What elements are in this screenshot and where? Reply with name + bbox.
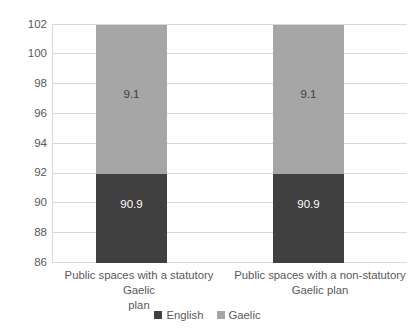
y-tick-102: 102 xyxy=(7,18,47,30)
y-tick-88: 88 xyxy=(7,226,47,238)
legend-item-gaelic[interactable]: Gaelic xyxy=(217,309,261,321)
category-label-line2: Gaelic plan xyxy=(233,283,407,298)
bar-label-gaelic: 9.1 xyxy=(96,88,167,100)
chart-legend: English Gaelic xyxy=(0,309,415,321)
bar-label-english: 90.9 xyxy=(96,198,167,210)
legend-item-english[interactable]: English xyxy=(154,309,203,321)
bar-segment-gaelic[interactable]: 9.1 xyxy=(96,25,167,174)
category-label-statutory: Public spaces with a statutory Gaelic pl… xyxy=(52,268,226,313)
bar-group-statutory[interactable]: 9.1 90.9 xyxy=(96,25,167,263)
stacked-bar-chart: 102 100 98 96 94 92 90 88 86 9.1 90.9 xyxy=(0,0,415,330)
y-tick-92: 92 xyxy=(7,166,47,178)
bar-segment-gaelic[interactable]: 9.1 xyxy=(273,25,344,174)
plot-area: 9.1 90.9 9.1 90.9 xyxy=(52,24,407,263)
bar-segment-english[interactable]: 90.9 xyxy=(273,174,344,263)
legend-swatch-icon xyxy=(217,311,225,319)
category-label-line1: Public spaces with a statutory Gaelic xyxy=(52,268,226,298)
category-label-line1: Public spaces with a non-statutory xyxy=(233,268,407,283)
legend-swatch-icon xyxy=(154,311,162,319)
bar-segment-english[interactable]: 90.9 xyxy=(96,174,167,263)
y-tick-94: 94 xyxy=(7,137,47,149)
y-tick-86: 86 xyxy=(7,256,47,268)
y-tick-100: 100 xyxy=(7,47,47,59)
y-tick-90: 90 xyxy=(7,196,47,208)
y-tick-96: 96 xyxy=(7,107,47,119)
bar-label-english: 90.9 xyxy=(273,198,344,210)
category-label-non-statutory: Public spaces with a non-statutory Gaeli… xyxy=(233,268,407,298)
legend-label-gaelic: Gaelic xyxy=(229,309,261,321)
y-tick-98: 98 xyxy=(7,77,47,89)
x-axis-category-labels: Public spaces with a statutory Gaelic pl… xyxy=(52,268,407,302)
bar-group-non-statutory[interactable]: 9.1 90.9 xyxy=(273,25,344,263)
legend-label-english: English xyxy=(166,309,203,321)
bar-label-gaelic: 9.1 xyxy=(273,88,344,100)
